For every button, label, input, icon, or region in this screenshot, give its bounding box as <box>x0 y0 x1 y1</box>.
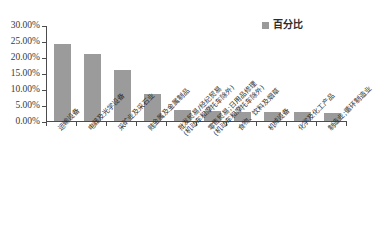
bar <box>324 113 341 121</box>
y-axis-tick-label: 30.00% <box>11 21 40 31</box>
x-axis-tick <box>46 121 47 126</box>
bar <box>264 112 281 121</box>
y-axis-tick-label: 5.00% <box>15 101 40 111</box>
bar <box>144 94 161 121</box>
bar-series <box>47 26 346 121</box>
x-axis-tick <box>106 121 107 126</box>
x-axis-tick <box>226 121 227 126</box>
y-axis-tick-label: 25.00% <box>11 37 40 47</box>
x-axis-tick <box>316 121 317 126</box>
x-axis-tick <box>76 121 77 126</box>
x-axis-tick <box>136 121 137 126</box>
bar <box>294 112 311 121</box>
y-axis-tick-label: 20.00% <box>11 53 40 63</box>
bar <box>174 110 191 121</box>
x-axis-tick <box>166 121 167 126</box>
bar <box>114 70 131 121</box>
x-axis-tick <box>346 121 347 126</box>
y-axis-tick-label: 15.00% <box>11 69 40 79</box>
bar <box>84 54 101 121</box>
bar <box>54 44 71 121</box>
y-axis-tick-label: 10.00% <box>11 85 40 95</box>
bar <box>204 111 221 121</box>
plot-area: 0.00%5.00%10.00%15.00%20.00%25.00%30.00% <box>46 26 346 122</box>
x-axis-tick <box>286 121 287 126</box>
x-axis-tick <box>196 121 197 126</box>
y-axis-tick-label: 0.00% <box>15 117 40 127</box>
x-axis-tick <box>256 121 257 126</box>
bar <box>234 112 251 121</box>
